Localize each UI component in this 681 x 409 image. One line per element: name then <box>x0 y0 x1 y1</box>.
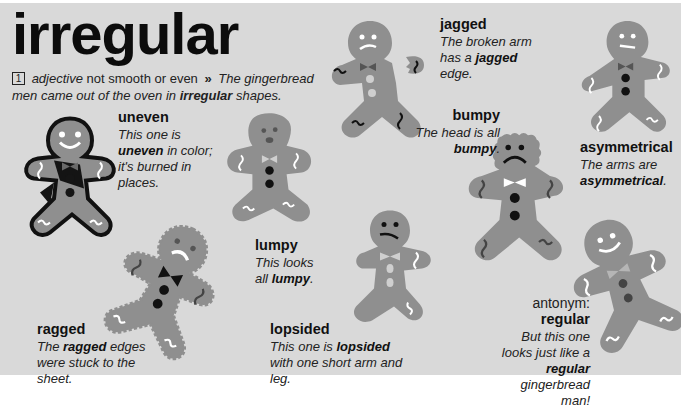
example-bold: irregular <box>180 88 233 103</box>
caption-text: This one is <box>118 127 181 142</box>
lumpy-gingerbread-man <box>222 103 317 238</box>
label-caption: But this one looks just like a regular g… <box>490 329 590 409</box>
label-heading: lumpy <box>255 237 325 253</box>
caption-bold: ragged <box>63 339 106 354</box>
caption-bold: lumpy <box>272 271 310 286</box>
caption-text: The arms are <box>580 157 657 172</box>
label-caption: This one is lopsided with one short arm … <box>270 339 405 387</box>
caption-text: The <box>37 339 63 354</box>
label-heading: jagged <box>440 16 550 32</box>
antonym-label: antonym: <box>490 295 590 311</box>
example-arrow-icon: » <box>204 71 211 86</box>
caption-bold: jagged <box>475 50 517 65</box>
label-caption: The broken arm has a jagged edge. <box>440 34 550 82</box>
dictionary-page: irregular 1 adjective not smooth or even… <box>0 3 681 375</box>
label-caption: This one is uneven in color; it's burned… <box>118 127 218 191</box>
caption-text: This one is <box>270 339 336 354</box>
label-uneven: uneven This one is uneven in color; it's… <box>118 109 218 191</box>
caption-text: The head is all <box>415 125 500 140</box>
caption-bold: bumpy <box>454 141 497 156</box>
asymmetrical-gingerbread-man <box>580 13 675 143</box>
part-of-speech: adjective <box>32 71 83 86</box>
sense-number-box: 1 <box>12 72 25 85</box>
definition-block: 1 adjective not smooth or even » The gin… <box>12 70 342 104</box>
caption-bold: lopsided <box>336 339 389 354</box>
label-caption: The arms are asymmetrical. <box>580 157 680 189</box>
headword: irregular <box>12 3 238 65</box>
label-caption: The ragged edges were stuck to the sheet… <box>37 339 167 387</box>
label-lumpy: lumpy This looks all lumpy. <box>255 237 325 287</box>
caption-text: But this one looks just like a <box>502 329 590 360</box>
label-heading: lopsided <box>270 321 405 337</box>
caption-text-end: with one short arm and leg. <box>270 355 402 386</box>
caption-text-end: . <box>310 271 314 286</box>
label-caption: The head is all bumpy. <box>412 125 500 157</box>
label-heading: bumpy <box>412 107 500 123</box>
caption-bold: asymmetrical <box>580 173 663 188</box>
label-heading: uneven <box>118 109 218 125</box>
label-jagged: jagged The broken arm has a jagged edge. <box>440 16 550 82</box>
label-bumpy: bumpy The head is all bumpy. <box>412 107 500 157</box>
label-caption: This looks all lumpy. <box>255 255 325 287</box>
example-text-end: shapes. <box>232 88 281 103</box>
caption-text-end: . <box>496 141 500 156</box>
caption-text-end: edge. <box>440 66 473 81</box>
caption-text-end: gingerbread man! <box>521 377 590 408</box>
label-heading: ragged <box>37 321 167 337</box>
caption-bold: uneven <box>118 143 164 158</box>
definition-text: not smooth or even <box>87 71 198 86</box>
burned-gingerbread-man <box>20 106 120 251</box>
label-heading: regular <box>490 311 590 327</box>
caption-text-end: . <box>663 173 667 188</box>
label-lopsided: lopsided This one is lopsided with one s… <box>270 321 405 387</box>
label-regular: antonym: regular But this one looks just… <box>490 295 590 409</box>
caption-bold: regular <box>546 361 590 376</box>
label-heading: asymmetrical <box>580 139 680 155</box>
label-ragged: ragged The ragged edges were stuck to th… <box>37 321 167 387</box>
label-asymmetrical: asymmetrical The arms are asymmetrical. <box>580 139 680 189</box>
